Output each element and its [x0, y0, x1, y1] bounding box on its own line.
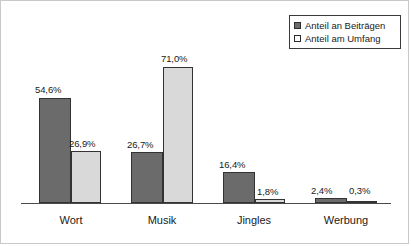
bar-wort-umfang[interactable] [71, 151, 101, 203]
legend-light-square-icon [294, 35, 301, 42]
legend-label-beitraege: Anteil an Beiträgen [305, 20, 385, 32]
x-axis-label-wort: Wort [26, 213, 116, 227]
bar-musik-umfang[interactable] [163, 67, 193, 203]
x-axis-label-werbung: Werbung [301, 213, 391, 227]
x-axis-label-jingles: Jingles [209, 213, 299, 227]
bar-label-werbung-beitraege: 2,4% [311, 185, 332, 196]
bar-label-jingles-beitraege: 16,4% [219, 159, 245, 170]
legend-item-beitraege[interactable]: Anteil an Beiträgen [294, 19, 396, 32]
legend-dark-square-icon [294, 22, 301, 29]
bar-wort-beitraege[interactable] [39, 98, 71, 203]
bar-musik-beitraege[interactable] [131, 152, 163, 203]
bar-label-musik-beitraege: 26,7% [127, 139, 153, 150]
chart-frame: 54,6% 26,9% Wort 26,7% 71,0% Musik 16,4%… [0, 0, 409, 244]
bar-werbung-umfang[interactable] [347, 201, 377, 203]
bar-label-wort-beitraege: 54,6% [35, 84, 61, 95]
legend-item-umfang[interactable]: Anteil am Umfang [294, 32, 396, 45]
bar-jingles-beitraege[interactable] [223, 172, 255, 203]
bar-label-wort-umfang: 26,9% [69, 138, 95, 149]
bar-werbung-beitraege[interactable] [315, 198, 347, 203]
bar-label-musik-umfang: 71,0% [161, 53, 187, 64]
chart-legend: Anteil an Beiträgen Anteil am Umfang [289, 15, 401, 49]
legend-label-umfang: Anteil am Umfang [305, 33, 381, 45]
bar-jingles-umfang[interactable] [255, 199, 285, 203]
bar-label-jingles-umfang: 1,8% [257, 186, 278, 197]
bar-label-werbung-umfang: 0,3% [349, 185, 370, 196]
x-axis-line [21, 203, 391, 204]
x-axis-label-musik: Musik [117, 213, 207, 227]
